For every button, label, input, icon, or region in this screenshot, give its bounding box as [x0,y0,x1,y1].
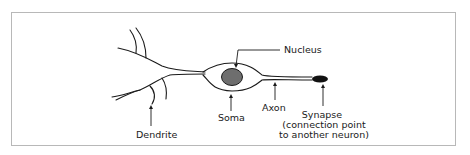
soma-outline [203,63,312,77]
axon-label: Axon [262,102,286,113]
neuron-diagram: Nucleus Soma Axon Dendrite Synapse (conn… [0,0,470,155]
synapse-terminal [312,76,328,83]
dendrite-label: Dendrite [136,129,177,140]
soma-label: Soma [218,112,245,123]
synapse-label-line3: to another neuron) [279,129,369,140]
nucleus-shape [222,69,243,86]
nucleus-label: Nucleus [284,44,322,55]
dendrite-branches [112,28,205,104]
nucleus-pointer [236,50,280,66]
